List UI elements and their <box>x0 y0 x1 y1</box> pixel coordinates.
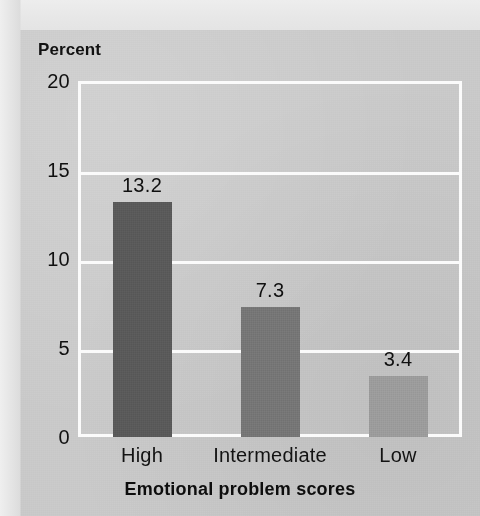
bar: 7.3 <box>241 307 300 437</box>
y-tick-label: 20 <box>26 70 70 93</box>
x-tick-label: Intermediate <box>213 444 327 467</box>
cropped-title-fragment: p <box>128 0 248 2</box>
x-tick-label: High <box>121 444 163 467</box>
bar-value-label: 3.4 <box>384 348 413 371</box>
bar-value-label: 13.2 <box>122 174 162 197</box>
y-tick-label: 0 <box>26 426 70 449</box>
chart-figure: p Percent 05101520 13.27.33.4 HighInterm… <box>0 0 480 516</box>
bar-value-label: 7.3 <box>256 279 285 302</box>
y-tick-label: 15 <box>26 159 70 182</box>
y-axis-ticks: 05101520 <box>22 81 70 437</box>
x-axis-title: Emotional problem scores <box>0 479 480 500</box>
x-tick-label: Low <box>379 444 416 467</box>
y-tick-label: 5 <box>26 337 70 360</box>
bar: 3.4 <box>369 376 428 437</box>
bar: 13.2 <box>113 202 172 437</box>
y-axis-title: Percent <box>38 40 101 60</box>
y-tick-label: 10 <box>26 248 70 271</box>
x-axis-tick-labels: HighIntermediateLow <box>78 444 462 474</box>
bars-group: 13.27.33.4 <box>78 81 462 437</box>
